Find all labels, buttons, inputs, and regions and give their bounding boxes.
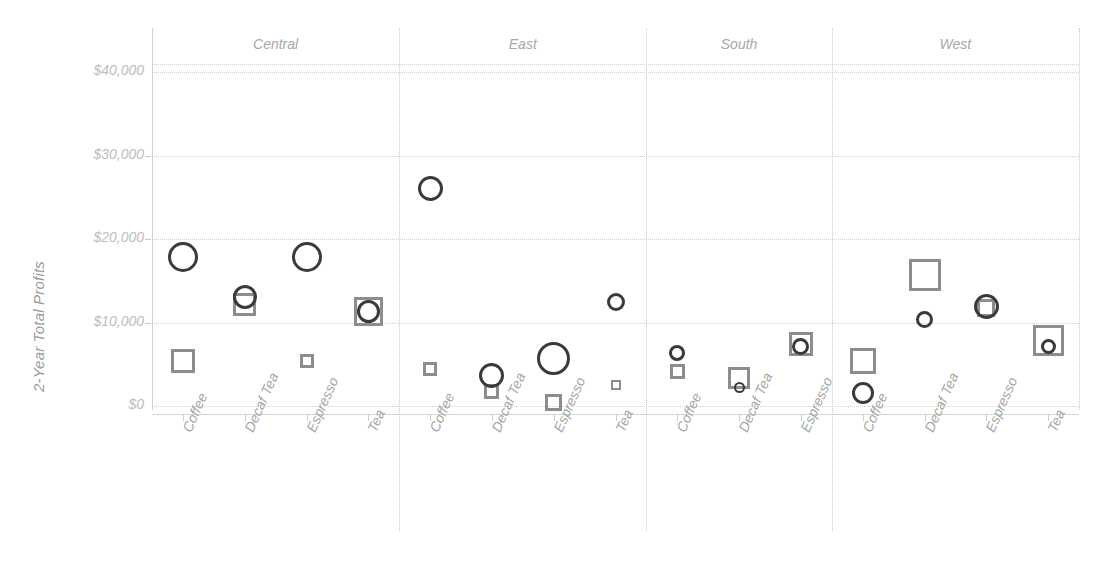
data-point-circle[interactable]	[479, 363, 504, 388]
data-point-circle[interactable]	[1041, 339, 1056, 354]
x-tick-label-tea: Tea	[364, 407, 388, 434]
data-point-circle[interactable]	[233, 285, 257, 309]
y-tick-label-20000: $20,000	[50, 229, 144, 245]
header-separator	[152, 64, 1079, 65]
x-tick-label-espresso: Espresso	[797, 375, 835, 435]
gridline-20000	[152, 239, 1079, 240]
data-point-circle[interactable]	[537, 342, 570, 375]
data-point-circle[interactable]	[168, 242, 198, 272]
data-point-circle[interactable]	[418, 176, 443, 201]
data-point-square[interactable]	[300, 354, 314, 368]
data-point-circle[interactable]	[607, 293, 625, 311]
x-tick-label-espresso: Espresso	[982, 375, 1020, 435]
data-point-square[interactable]	[423, 362, 437, 376]
data-point-circle[interactable]	[669, 345, 685, 361]
data-point-square[interactable]	[670, 364, 685, 379]
y-tick-label-40000: $40,000	[50, 62, 144, 78]
x-tick-label-coffee: Coffee	[179, 390, 210, 434]
x-tick-label-espresso: Espresso	[303, 375, 341, 435]
y-tick-mark-30000	[145, 156, 151, 157]
x-tick-label-tea: Tea	[1044, 407, 1068, 434]
data-point-circle[interactable]	[357, 300, 380, 323]
gridline-30000	[152, 156, 1079, 157]
data-point-circle[interactable]	[734, 382, 745, 393]
x-tick-label-decaf-tea: Decaf Tea	[241, 370, 281, 434]
x-tick-label-decaf-tea: Decaf Tea	[921, 370, 961, 434]
x-tick-label-coffee: Coffee	[426, 390, 457, 434]
data-point-square[interactable]	[850, 348, 876, 374]
y-tick-label-30000: $30,000	[50, 146, 144, 162]
gridline-40000	[152, 72, 1079, 73]
data-point-circle[interactable]	[916, 311, 933, 328]
y-axis-title: 2-Year Total Profits	[30, 261, 47, 392]
x-tick-label-coffee: Coffee	[673, 390, 704, 434]
panel-separator-south	[646, 28, 647, 531]
y-tick-mark-10000	[145, 323, 151, 324]
plot-right-border	[1079, 28, 1080, 410]
y-tick-mark-20000	[145, 239, 151, 240]
data-point-circle[interactable]	[974, 294, 999, 319]
y-axis-line	[152, 28, 153, 410]
panel-header-south: South	[646, 36, 831, 52]
data-point-square[interactable]	[171, 349, 195, 373]
data-point-square[interactable]	[909, 259, 941, 291]
data-point-circle[interactable]	[292, 242, 322, 272]
y-tick-label-10000: $10,000	[50, 313, 144, 329]
data-point-square[interactable]	[611, 380, 621, 390]
x-tick-label-tea: Tea	[612, 407, 636, 434]
panel-header-central: Central	[152, 36, 399, 52]
scatter-chart: 2-Year Total Profits CentralEastSouthWes…	[0, 0, 1095, 579]
panel-separator-east	[399, 28, 400, 531]
panel-header-west: West	[832, 36, 1079, 52]
panel-separator-west	[832, 28, 833, 531]
panel-header-east: East	[399, 36, 646, 52]
y-tick-label-0: $0	[50, 396, 144, 412]
gridline-10000	[152, 323, 1079, 324]
